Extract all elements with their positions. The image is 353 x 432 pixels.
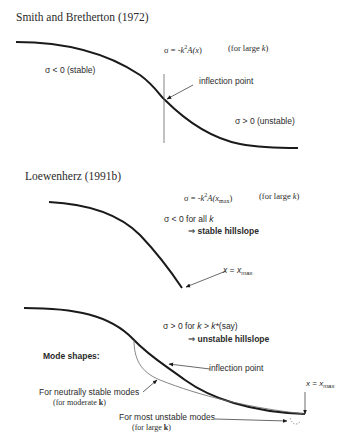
panel3-result-line2: ⇒ unstable hillslope xyxy=(188,335,269,344)
panel2-condition: (for large k) xyxy=(259,192,299,201)
mode-shapes-label: Mode shapes: xyxy=(43,352,100,361)
neutral-modes-sublabel: (for moderate k) xyxy=(53,399,106,407)
panel3-xmax-label: x = xmax xyxy=(306,380,334,389)
panel1-equation: σ = -k2A(x) xyxy=(164,44,202,55)
panel2-equation: σ = -k2A(xmax) xyxy=(184,192,232,204)
panel2-xmax-label: x = xmax xyxy=(223,266,253,276)
neutral-mode-pointer-arrow xyxy=(143,380,157,392)
inflection-pointer-arrow-3 xyxy=(169,364,210,369)
unstable-mode-pointer-arrow xyxy=(215,419,287,421)
inflection-label: inflection point xyxy=(199,77,253,86)
hillslope-profile-curve-1 xyxy=(16,42,298,148)
neutral-mode-shape-curve xyxy=(134,340,305,414)
panel1-condition: (for large k) xyxy=(228,44,268,53)
unstable-mode-shape-tail xyxy=(290,418,300,424)
hillslope-profile-curve-2 xyxy=(49,202,182,288)
unstable-modes-label: For most unstable modes xyxy=(119,413,215,422)
panel2-result-line2: ⇒ stable hillslope xyxy=(188,227,259,236)
panel1-title: Smith and Bretherton (1972) xyxy=(16,12,149,24)
inflection-pointer-arrow xyxy=(167,85,193,99)
unstable-modes-sublabel: (for large k) xyxy=(132,424,171,432)
xmax-pointer-arrow xyxy=(186,271,226,287)
panel3-result-line1: σ > 0 for k > k*(say) xyxy=(163,322,238,331)
stable-label: σ < 0 (stable) xyxy=(45,66,95,75)
panel3-inflection-label: inflection point xyxy=(209,364,263,373)
unstable-label: σ > 0 (unstable) xyxy=(235,117,295,126)
panel2-title: Loewenherz (1991b) xyxy=(25,171,121,183)
panel2-result-line1: σ < 0 for all k xyxy=(164,215,213,224)
neutral-modes-label: For neutrally stable modes xyxy=(39,388,139,397)
